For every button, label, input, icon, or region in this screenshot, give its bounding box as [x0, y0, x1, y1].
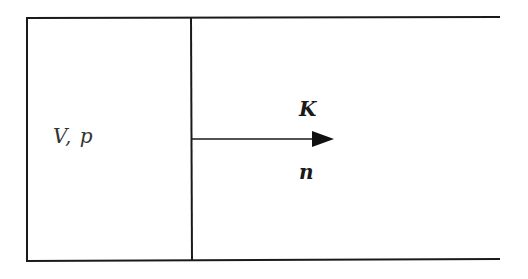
- normal-n-label: n: [299, 160, 314, 184]
- bottom-wall-line: [26, 259, 500, 261]
- chamber-volume-pressure-label: V, p: [53, 124, 93, 148]
- arrowhead-icon: [312, 131, 334, 147]
- piston-cylinder-diagram: V, p K n: [0, 0, 528, 279]
- vector-k-label: K: [299, 97, 316, 121]
- piston-wall-line: [191, 17, 192, 261]
- top-wall-line: [26, 17, 500, 18]
